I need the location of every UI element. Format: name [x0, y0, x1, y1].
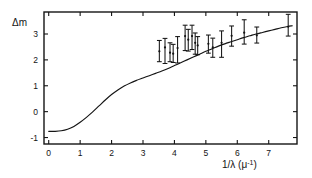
- y-tick-label: 3: [33, 29, 38, 39]
- y-tick-label: 0: [33, 107, 38, 117]
- x-tick-label: 2: [109, 148, 114, 158]
- y-tick-label: 2: [33, 55, 38, 65]
- y-axis-label: Δm: [12, 17, 27, 28]
- x-tick-label: 4: [172, 148, 177, 158]
- x-tick-label: 5: [203, 148, 208, 158]
- x-tick-label: 0: [46, 148, 51, 158]
- x-tick-label: 3: [141, 148, 146, 158]
- x-tick-label: 7: [266, 148, 271, 158]
- extinction-curve-chart: 01234567 3210-1 Δm1/λ (μ-1): [0, 0, 312, 178]
- figure-panel: 01234567 3210-1 Δm1/λ (μ-1): [0, 0, 312, 178]
- y-tick-label: -1: [30, 133, 38, 143]
- y-tick-label: 1: [33, 81, 38, 91]
- x-tick-label: 1: [78, 148, 83, 158]
- x-tick-label: 6: [235, 148, 240, 158]
